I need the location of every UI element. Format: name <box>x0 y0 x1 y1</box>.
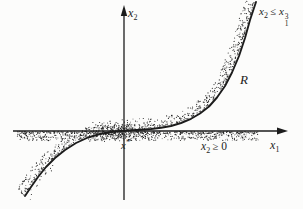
arrow-up-icon <box>121 5 127 16</box>
constraint-label-curve: x2≤x31 <box>259 6 289 28</box>
greater-equal-sign: ≥ <box>210 141 221 152</box>
point-label-xstar: x* <box>121 138 130 151</box>
curve-constraint-rhs-scripts: 31 <box>285 14 289 28</box>
diagram-canvas <box>0 0 303 209</box>
y-axis-label: x2 <box>128 7 138 22</box>
region-label: R <box>240 73 248 86</box>
stipple-shading-dark <box>17 1 257 195</box>
arrow-right-icon <box>277 128 288 135</box>
curve-constraint-rhs: x <box>279 5 284 17</box>
x-axis-label: x1 <box>270 139 280 154</box>
x-axis-label-sub: 1 <box>276 145 280 154</box>
less-equal-sign: ≤ <box>268 6 279 17</box>
y-axis-label-sub: 2 <box>134 13 138 22</box>
stipple-shading-light <box>18 2 258 199</box>
constraint-label-halfplane: x2≥0 <box>201 141 227 155</box>
cubic-boundary-curve <box>25 2 256 196</box>
math-diagram-region-R: x2 x1 x2≤x31 R x2≥0 x* <box>0 0 303 209</box>
